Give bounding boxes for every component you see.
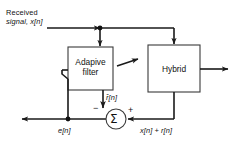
hybrid-label-line1: Hybrid [162,64,186,74]
hybrid-label: Hybrid [148,64,200,74]
error-tap-junction [66,117,71,122]
input-signal-label-line1: Received [6,8,38,17]
block-diagram-canvas: Received signal, x[n] Adapive filter Hyb… [0,0,234,144]
filter-output-label: r̂[n] [106,93,117,102]
input-signal-label-line2: signal, x[n] [6,17,43,26]
input-tap-junction [98,26,103,31]
adaptive-filter-label-line2: filter [83,67,99,77]
summer-minus-sign: − [93,104,98,113]
sigma-symbol: Σ [110,113,118,125]
hybrid-output-label: x[n] + r[n] [140,126,172,135]
input-signal-label: Received signal, x[n] [6,8,43,26]
summer-plus-sign: + [128,106,133,115]
adaptation-arrow [117,59,138,66]
error-signal-label: e[n] [58,126,71,135]
adaptive-filter-label: Adapive filter [68,57,113,77]
adaptive-filter-label-line1: Adapive [75,57,105,67]
